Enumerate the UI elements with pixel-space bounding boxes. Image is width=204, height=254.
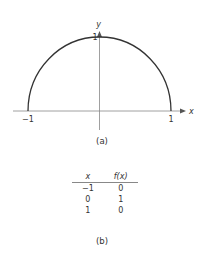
cell-x: −1 bbox=[72, 183, 104, 195]
x-axis-label: x bbox=[188, 107, 194, 116]
table-header-row: x f(x) bbox=[72, 172, 138, 183]
table-row: −1 0 bbox=[72, 183, 138, 195]
x-tick-label: 1 bbox=[168, 115, 173, 124]
y-axis-arrow bbox=[97, 31, 102, 37]
values-table: x f(x) −1 0 0 1 1 0 bbox=[72, 172, 138, 216]
figure-caption-b: (b) bbox=[0, 236, 204, 246]
y-axis-label: y bbox=[95, 20, 101, 29]
cell-x: 0 bbox=[72, 194, 104, 205]
table-row: 1 0 bbox=[72, 205, 138, 216]
figure-caption-a: (a) bbox=[0, 136, 204, 146]
cell-fx: 0 bbox=[104, 205, 138, 216]
x-tick-label: −1 bbox=[22, 115, 34, 124]
x-axis-arrow bbox=[180, 109, 186, 114]
semicircle-plot: −111 x y bbox=[0, 0, 204, 130]
header-fx: f(x) bbox=[104, 172, 138, 183]
cell-fx: 1 bbox=[104, 194, 138, 205]
table-row: 0 1 bbox=[72, 194, 138, 205]
cell-fx: 0 bbox=[104, 183, 138, 195]
y-tick-label: 1 bbox=[92, 33, 97, 42]
header-x: x bbox=[72, 172, 104, 183]
cell-x: 1 bbox=[72, 205, 104, 216]
